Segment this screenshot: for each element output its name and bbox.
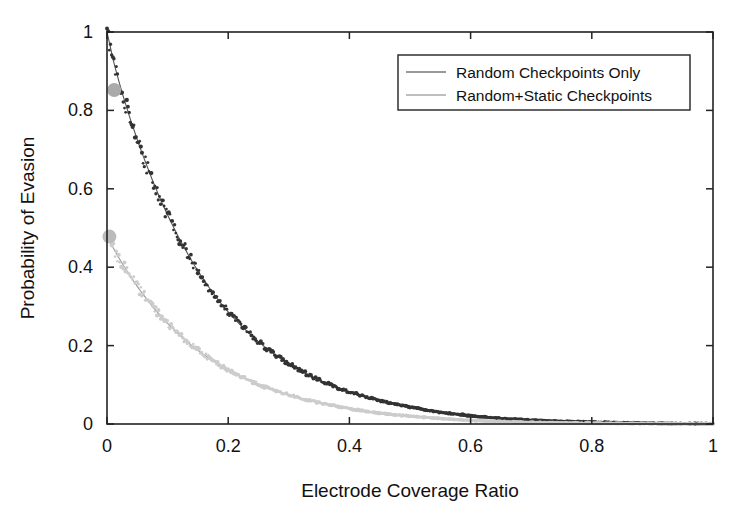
x-axis-label: Electrode Coverage Ratio (301, 480, 519, 501)
data-point (131, 279, 134, 282)
data-point (115, 250, 119, 254)
data-point (134, 135, 138, 139)
data-point (154, 305, 157, 308)
data-point (126, 105, 130, 109)
chart-figure: 00.20.40.60.8100.20.40.60.81 Electrode C… (0, 0, 742, 520)
data-point (137, 283, 140, 286)
data-point (108, 49, 111, 52)
data-point (195, 268, 198, 271)
data-point (224, 304, 227, 307)
data-point (125, 266, 128, 269)
data-point (109, 43, 112, 46)
data-point (125, 98, 129, 102)
y-tick-label: 0 (83, 414, 93, 434)
data-point (157, 198, 160, 201)
y-tick-label: 0.6 (68, 179, 93, 199)
data-point (218, 299, 221, 302)
data-point (187, 340, 190, 343)
data-point (154, 192, 157, 195)
legend-label: Random Checkpoints Only (456, 64, 641, 81)
data-point (202, 279, 206, 283)
data-point (192, 343, 195, 346)
data-point (117, 253, 121, 257)
x-tick-label: 0.4 (337, 436, 362, 456)
data-point (155, 186, 158, 189)
data-point (139, 144, 143, 148)
data-point (166, 319, 169, 322)
data-point (118, 261, 121, 264)
data-point (151, 181, 154, 184)
data-point (177, 331, 180, 334)
data-point (201, 275, 204, 278)
highlight-data-point (102, 230, 116, 244)
data-point (244, 325, 248, 329)
data-point (198, 269, 201, 272)
data-point (163, 215, 167, 219)
data-point (143, 290, 146, 293)
data-point (194, 262, 197, 265)
x-tick-label: 0.2 (216, 436, 241, 456)
data-point (169, 213, 172, 216)
data-point (192, 267, 195, 270)
data-point (176, 236, 179, 239)
data-point (156, 308, 160, 312)
data-point (163, 205, 166, 208)
y-tick-label: 1 (83, 22, 93, 42)
data-point (249, 330, 252, 333)
data-point (215, 295, 218, 298)
data-point (132, 275, 135, 278)
data-point (183, 242, 186, 245)
data-point (116, 260, 119, 263)
data-point (226, 308, 229, 311)
data-point (303, 369, 307, 373)
chart-legend: Random Checkpoints OnlyRandom+Static Che… (398, 55, 690, 110)
data-point (161, 198, 165, 202)
data-point (143, 165, 146, 168)
data-point (122, 100, 126, 104)
data-point (272, 351, 275, 354)
y-tick-label: 0.4 (68, 257, 93, 277)
data-point (188, 257, 191, 260)
data-point (149, 171, 153, 175)
data-point (197, 347, 201, 351)
data-point (211, 290, 215, 294)
y-tick-label: 0.2 (68, 336, 93, 356)
legend-label: Random+Static Checkpoints (456, 87, 652, 104)
data-point (132, 123, 135, 126)
data-point (115, 65, 118, 68)
data-point (144, 155, 147, 158)
data-point (173, 223, 176, 226)
data-point (206, 284, 209, 287)
data-point (262, 342, 265, 345)
data-point (112, 57, 115, 60)
data-point (165, 208, 168, 211)
data-point (116, 72, 119, 75)
data-point (189, 253, 193, 257)
x-tick-label: 1 (708, 436, 718, 456)
data-point (140, 151, 144, 155)
data-point (196, 271, 200, 275)
data-point (204, 356, 207, 359)
data-point (158, 195, 161, 198)
data-point (146, 161, 149, 164)
data-point (179, 239, 183, 243)
highlight-data-point (107, 83, 121, 97)
data-point (181, 246, 184, 249)
x-tick-label: 0.6 (458, 436, 483, 456)
data-point (174, 232, 177, 235)
data-point (124, 111, 127, 114)
data-point (180, 332, 184, 336)
data-point (138, 140, 141, 143)
x-tick-label: 0.8 (579, 436, 604, 456)
x-tick-label: 0 (102, 436, 112, 456)
data-point (255, 381, 258, 384)
y-axis-label: Probability of Evasion (17, 137, 38, 320)
data-point (142, 162, 145, 165)
y-tick-label: 0.8 (68, 100, 93, 120)
data-point (185, 247, 188, 250)
data-point (127, 111, 131, 115)
data-point (191, 262, 194, 265)
data-point (159, 202, 163, 206)
data-point (170, 219, 174, 223)
data-point (123, 107, 126, 110)
